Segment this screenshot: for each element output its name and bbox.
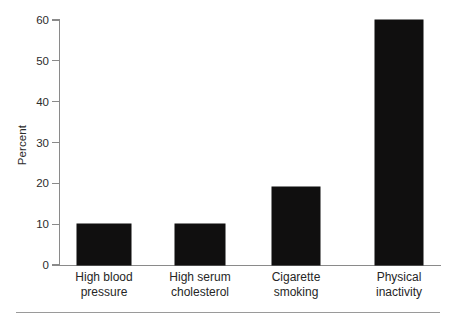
y-tick-label: 50 — [9, 55, 49, 67]
y-tick-mark — [52, 264, 59, 265]
y-tick-mark — [52, 142, 59, 143]
y-tick-label: 20 — [9, 177, 49, 189]
bar-chart-figure: Percent 0102030405060 High bloodpressure… — [0, 0, 452, 323]
bar — [175, 224, 225, 265]
category-label-line: Physical — [329, 270, 452, 285]
y-tick-label: 10 — [9, 218, 49, 230]
y-axis-line — [59, 19, 60, 266]
y-tick-mark — [52, 60, 59, 61]
y-tick-mark — [52, 183, 59, 184]
bottom-divider-rule — [16, 312, 440, 313]
y-tick-mark — [52, 19, 59, 20]
bar — [375, 20, 423, 265]
y-tick-label: 60 — [9, 14, 49, 26]
y-tick-mark — [52, 224, 59, 225]
y-tick-mark — [52, 101, 59, 102]
y-tick-label: 40 — [9, 96, 49, 108]
y-tick-label: 30 — [9, 137, 49, 149]
bar — [77, 224, 131, 265]
category-label: Physicalinactivity — [329, 270, 452, 299]
category-label-line: inactivity — [329, 285, 452, 300]
bar — [272, 187, 320, 265]
